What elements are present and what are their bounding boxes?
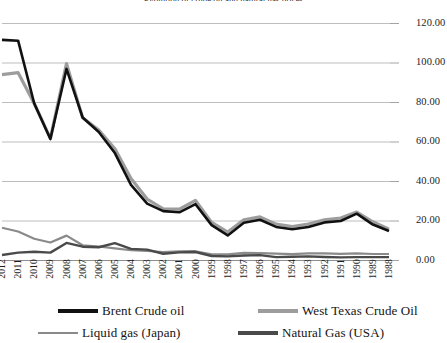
x-axis-label: 1998 xyxy=(223,259,233,279)
y-axis-label: 80.00 xyxy=(416,96,440,107)
x-axis-labels: 2012201120102009200820072006200520042003… xyxy=(0,259,447,305)
chart-root: Evolution of crude oil and natural gas p… xyxy=(0,0,447,343)
legend-swatch xyxy=(58,309,98,313)
x-axis-label: 1996 xyxy=(255,259,265,279)
x-axis-label: 2000 xyxy=(191,259,201,279)
x-axis-label: 1995 xyxy=(271,259,281,279)
chart-legend: Brent Crude oilWest Texas Crude OilLiqui… xyxy=(0,303,447,343)
legend-item[interactable]: Natural Gas (USA) xyxy=(238,325,384,341)
x-axis-label: 2001 xyxy=(174,259,184,279)
x-axis-label: 1989 xyxy=(368,259,378,279)
x-axis-label: 1991 xyxy=(336,259,346,279)
legend-label: Natural Gas (USA) xyxy=(282,325,384,341)
series-line xyxy=(2,228,389,255)
y-axis-label: 60.00 xyxy=(416,135,440,146)
legend-label: West Texas Crude Oil xyxy=(302,303,418,319)
y-axis-labels: 120.00100.0080.0060.0040.0020.000.00 xyxy=(402,0,447,270)
x-axis-label: 1988 xyxy=(384,259,394,279)
legend-label: Liquid gas (Japan) xyxy=(82,325,181,341)
legend-label: Brent Crude oil xyxy=(102,303,184,319)
x-axis-label: 2012 xyxy=(0,259,7,279)
x-axis-label: 1997 xyxy=(239,259,249,279)
plot-area xyxy=(0,0,447,270)
y-axis-label: 120.00 xyxy=(416,17,445,28)
legend-item[interactable]: Brent Crude oil xyxy=(58,303,184,319)
x-axis-label: 2006 xyxy=(94,259,104,279)
series-line xyxy=(2,64,389,232)
legend-item[interactable]: West Texas Crude Oil xyxy=(258,303,418,319)
legend-swatch xyxy=(38,332,78,335)
y-axis-label: 40.00 xyxy=(416,175,440,186)
x-axis-label: 2010 xyxy=(29,259,39,279)
x-axis-label: 1993 xyxy=(303,259,313,279)
x-axis-label: 2007 xyxy=(78,259,88,279)
x-axis-label: 2002 xyxy=(158,259,168,279)
legend-swatch xyxy=(238,331,278,335)
plot-svg xyxy=(0,0,447,270)
x-axis-label: 2003 xyxy=(142,259,152,279)
x-axis-label: 1994 xyxy=(287,259,297,279)
legend-swatch xyxy=(258,309,298,313)
x-axis-label: 2004 xyxy=(126,259,136,279)
x-axis-label: 2008 xyxy=(62,259,72,279)
y-axis-label: 100.00 xyxy=(416,56,445,67)
legend-item[interactable]: Liquid gas (Japan) xyxy=(38,325,181,341)
series-line xyxy=(2,40,389,236)
x-axis-label: 1990 xyxy=(352,259,362,279)
x-axis-label: 1999 xyxy=(207,259,217,279)
x-axis-label: 2011 xyxy=(13,259,23,278)
x-axis-label: 2009 xyxy=(45,259,55,279)
y-axis-label: 20.00 xyxy=(416,214,440,225)
x-axis-label: 1992 xyxy=(320,259,330,279)
x-axis-label: 2005 xyxy=(110,259,120,279)
